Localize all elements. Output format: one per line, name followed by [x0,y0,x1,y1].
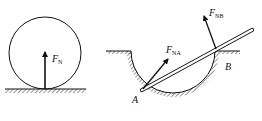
left-figure-ball-on-ground: FN [5,17,86,93]
ground-hatching [5,89,86,93]
point-a-label: A [131,94,139,105]
point-b-label: B [225,61,231,72]
right-figure-rod-in-bowl: FNA FNB A B [106,7,252,105]
normal-force-label: FN [51,53,63,65]
force-nb-label: FNB [208,7,223,19]
force-diagram: FN FNA FNB A B [0,0,262,121]
force-nb-arrow [204,16,216,49]
force-na-label: FNA [165,44,181,56]
rod-body [142,30,252,90]
